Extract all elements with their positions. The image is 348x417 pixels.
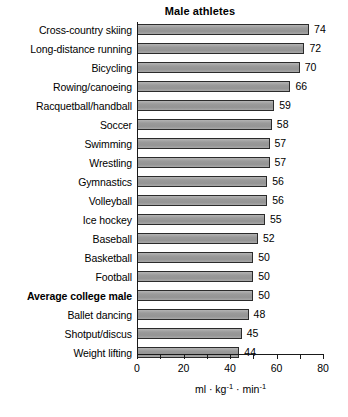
bar-value-label: 66: [295, 80, 307, 92]
bar-value-label: 56: [272, 175, 284, 187]
bar-row: Volleyball56: [0, 193, 348, 212]
bar-value-label: 70: [305, 61, 317, 73]
bar-value-label: 55: [270, 213, 282, 225]
bar-value-label: 59: [279, 99, 291, 111]
bar-value-label: 58: [277, 118, 289, 130]
bar-chart: Male athletes Cross-country skiing74Long…: [0, 0, 348, 417]
x-axis-tick-label: 20: [178, 362, 190, 374]
x-axis-tick: [137, 354, 138, 359]
x-axis-tick: [160, 354, 161, 359]
bar: [137, 309, 249, 320]
bar-value-label: 48: [254, 308, 266, 320]
bar: [137, 252, 253, 263]
bar-category-label: Racquetball/handball: [0, 100, 132, 112]
bar-value-label: 74: [314, 23, 326, 35]
bar-category-label: Volleyball: [0, 195, 132, 207]
bar: [137, 157, 270, 168]
bar-row: Ice hockey55: [0, 212, 348, 231]
bar-value-label: 45: [247, 327, 259, 339]
x-axis-tick: [184, 354, 185, 359]
x-axis-tick: [207, 354, 208, 359]
bar-category-label: Shotput/discus: [0, 328, 132, 340]
bar: [137, 328, 242, 339]
bar-row: Baseball52: [0, 231, 348, 250]
bar-category-label: Weight lifting: [0, 347, 132, 359]
bar-row: Football50: [0, 269, 348, 288]
bar: [137, 138, 270, 149]
bar-row: Long-distance running72: [0, 41, 348, 60]
bar: [137, 195, 267, 206]
x-axis-tick-label: 40: [224, 362, 236, 374]
bar-value-label: 72: [309, 42, 321, 54]
bar-value-label: 57: [275, 156, 287, 168]
plot-area: Cross-country skiing74Long-distance runn…: [0, 22, 348, 354]
bar-row: Rowing/canoeing66: [0, 79, 348, 98]
bar-category-label: Swimming: [0, 138, 132, 150]
chart-title: Male athletes: [0, 5, 348, 18]
bar: [137, 233, 258, 244]
bar-row: Basketball50: [0, 250, 348, 269]
bar-category-label: Long-distance running: [0, 43, 132, 55]
bar: [137, 100, 274, 111]
axis-unit-ml: ml: [195, 383, 206, 395]
bar-row: Racquetball/handball59: [0, 98, 348, 117]
bar-value-label: 50: [258, 251, 270, 263]
x-axis-title: ml · kg-1 · min-1: [137, 383, 324, 396]
bar: [137, 176, 267, 187]
bar: [137, 24, 309, 35]
bar-category-label: Ballet dancing: [0, 309, 132, 321]
bar: [137, 62, 300, 73]
bar-category-label: Wrestling: [0, 157, 132, 169]
x-axis-tick-label: 0: [134, 362, 140, 374]
bar-category-label: Football: [0, 271, 132, 283]
bar-row: Ballet dancing48: [0, 307, 348, 326]
x-axis-tick: [300, 354, 301, 359]
bar-category-label: Cross-country skiing: [0, 24, 132, 36]
bar: [137, 81, 290, 92]
bar-category-label: Basketball: [0, 252, 132, 264]
bar-category-label: Ice hockey: [0, 214, 132, 226]
bar: [137, 43, 304, 54]
bar-category-label: Rowing/canoeing: [0, 81, 132, 93]
bar-row: Wrestling57: [0, 155, 348, 174]
bar-row: Soccer58: [0, 117, 348, 136]
bar-row: Gymnastics56: [0, 174, 348, 193]
axis-unit-min: min: [242, 383, 259, 395]
x-axis-tick: [230, 354, 231, 359]
x-axis-tick: [277, 354, 278, 359]
bar: [137, 271, 253, 282]
axis-unit-kg: kg: [215, 383, 226, 395]
bar-value-label: 56: [272, 194, 284, 206]
axis-unit-min-exponent: -1: [259, 382, 266, 391]
bar-category-label: Bicycling: [0, 62, 132, 74]
x-axis-tick: [253, 354, 254, 359]
bar: [137, 290, 253, 301]
y-axis-line: [137, 22, 138, 354]
x-axis-tick: [323, 354, 324, 359]
bar-value-label: 52: [263, 232, 275, 244]
bar-row: Cross-country skiing74: [0, 22, 348, 41]
bar-category-label: Gymnastics: [0, 176, 132, 188]
bar-row: Average college male50: [0, 288, 348, 307]
bar-value-label: 50: [258, 270, 270, 282]
bar-category-label: Baseball: [0, 233, 132, 245]
x-axis-tick-label: 80: [317, 362, 329, 374]
bar: [137, 119, 272, 130]
bar-row: Swimming57: [0, 136, 348, 155]
bar: [137, 214, 265, 225]
bar: [137, 347, 239, 358]
bar-value-label: 57: [275, 137, 287, 149]
x-axis-tick-label: 60: [271, 362, 283, 374]
bar-category-label: Soccer: [0, 119, 132, 131]
bar-category-label: Average college male: [0, 290, 132, 302]
bar-row: Bicycling70: [0, 60, 348, 79]
bar-value-label: 50: [258, 289, 270, 301]
bar-row: Shotput/discus45: [0, 326, 348, 345]
